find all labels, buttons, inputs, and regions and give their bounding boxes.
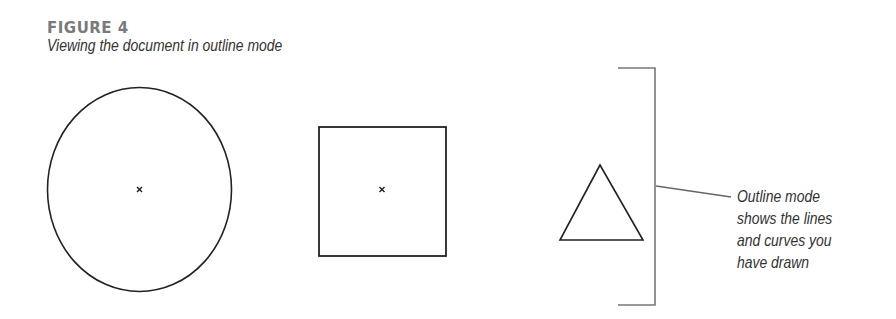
triangle-shape (560, 165, 643, 240)
callout-bracket (618, 68, 655, 305)
callout-line: and curves you (737, 230, 832, 252)
circle-center-marker-icon (137, 187, 142, 192)
callout-line: Outline mode (737, 186, 832, 208)
square-shape (319, 127, 446, 256)
square-center-marker-icon (380, 187, 385, 192)
callout-leader-line (656, 186, 731, 197)
callout-line: have drawn (737, 252, 832, 274)
callout-text: Outline mode shows the lines and curves … (737, 186, 832, 274)
callout-line: shows the lines (737, 208, 832, 230)
